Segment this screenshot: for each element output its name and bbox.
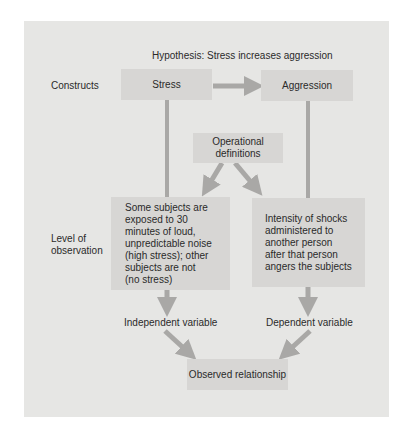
row-label-constructs: Constructs <box>51 80 99 92</box>
construct-aggression-label: Aggression <box>282 80 332 92</box>
opdef-line2: definitions <box>215 148 260 160</box>
dependent-definition-box: Intensity of shocks administered to anot… <box>252 198 365 287</box>
observed-relationship-label: Observed relationship <box>189 369 286 381</box>
independent-definition-box: Some subjects are exposed to 30 minutes … <box>111 197 230 290</box>
dependent-variable-label: Dependent variable <box>266 317 353 329</box>
hypothesis-title: Hypothesis: Stress increases aggression <box>152 50 333 62</box>
construct-aggression-box: Aggression <box>261 70 353 101</box>
operational-definitions-box: Operational definitions <box>193 133 283 163</box>
opdef-line1: Operational <box>212 136 264 148</box>
row-label-level-of-observation: Level of observation <box>51 233 103 257</box>
construct-stress-label: Stress <box>152 79 180 91</box>
independent-variable-label: Independent variable <box>124 317 217 329</box>
construct-stress-box: Stress <box>121 69 212 100</box>
observed-relationship-box: Observed relationship <box>187 359 288 390</box>
